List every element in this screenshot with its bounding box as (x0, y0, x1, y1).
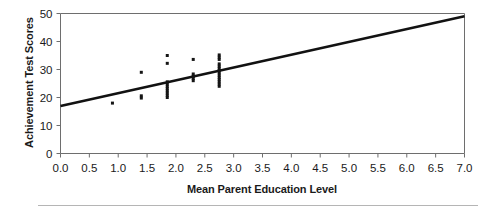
y-tick-label: 40 (40, 36, 53, 48)
x-tick-label: 6.5 (428, 162, 444, 174)
data-point (140, 94, 143, 97)
x-tick-label: 1.0 (110, 162, 126, 174)
y-tick-label: 20 (40, 92, 53, 104)
footer-divider (38, 205, 478, 206)
data-point (166, 54, 169, 57)
x-tick-label: 4.0 (283, 162, 299, 174)
data-point (218, 62, 221, 65)
x-tick-label: 7.0 (457, 162, 473, 174)
y-tick-label: 0 (46, 148, 52, 160)
x-tick-label: 5.0 (341, 162, 357, 174)
x-tick-label: 3.5 (255, 162, 271, 174)
chart-figure: Achievement Test Scores 010203040500.00.… (0, 0, 490, 214)
x-tick-label: 4.5 (312, 162, 328, 174)
y-tick-label: 50 (40, 8, 53, 20)
x-tick-label: 6.0 (399, 162, 415, 174)
x-tick-label: 0.0 (53, 162, 69, 174)
regression-line (61, 16, 465, 106)
data-point (218, 53, 221, 56)
data-point (111, 102, 114, 105)
x-tick-label: 5.5 (370, 162, 386, 174)
x-tick-label: 2.5 (197, 162, 213, 174)
x-tick-label: 1.5 (139, 162, 155, 174)
x-tick-label: 3.0 (226, 162, 242, 174)
data-point (140, 71, 143, 74)
scatter-series (111, 53, 221, 104)
y-tick-label: 10 (40, 120, 53, 132)
y-tick-label: 30 (40, 64, 53, 76)
scatter-plot-canvas: 010203040500.00.51.01.52.02.53.03.54.04.… (0, 0, 490, 214)
x-axis-title: Mean Parent Education Level (60, 183, 464, 195)
x-tick-label: 2.0 (168, 162, 184, 174)
x-tick-label: 0.5 (81, 162, 97, 174)
data-point (166, 62, 169, 65)
data-point (192, 58, 195, 61)
